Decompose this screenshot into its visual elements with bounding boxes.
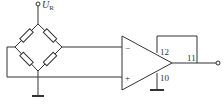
pin-11-label: 11 [187,53,196,63]
pin-10-label: 10 [160,73,170,83]
resistor-bottom-left [20,52,33,65]
supply-terminal [36,2,40,6]
resistor-bottom-right [43,52,56,65]
output-terminal [216,61,220,65]
pin-12-label: 12 [160,47,169,57]
noninverting-input-label: + [125,73,130,83]
inverting-input-label: − [125,43,130,53]
supply-label: UR [42,0,54,12]
wire-left-to-noninverting [7,47,122,77]
circuit-diagram: UR − + 12 11 10 [0,0,224,106]
resistor-top-left [20,29,33,42]
resistor-top-right [43,29,56,42]
